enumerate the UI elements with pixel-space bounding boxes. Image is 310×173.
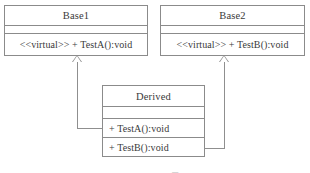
class-attributes-base2 — [161, 25, 304, 33]
class-attributes-base1 — [5, 25, 147, 33]
generalization-line-derived-base1-vertical — [77, 62, 78, 128]
uml-class-base1[interactable]: Base1 <<virtual>> + TestA():void — [4, 5, 148, 56]
class-name-derived: Derived — [103, 86, 204, 106]
uml-class-base2[interactable]: Base2 <<virtual>> + TestB():void — [160, 5, 305, 56]
class-name-base2: Base2 — [161, 6, 304, 25]
generalization-line-derived-base2-vertical — [224, 62, 225, 148]
diagram-caption: ― ―― ―▄ — [0, 166, 310, 173]
uml-class-derived[interactable]: Derived + TestA():void + TestB():void — [102, 85, 205, 157]
generalization-line-derived-base2-horizontal — [204, 148, 225, 149]
class-attributes-derived — [103, 106, 204, 118]
class-operation-base2-testb: <<virtual>> + TestB():void — [161, 33, 304, 55]
uml-class-diagram: Base1 <<virtual>> + TestA():void Base2 <… — [0, 0, 310, 173]
generalization-arrowhead-base1 — [72, 55, 82, 62]
class-operation-derived-testa: + TestA():void — [103, 118, 204, 137]
generalization-line-derived-base1-horizontal — [77, 128, 103, 129]
class-name-base1: Base1 — [5, 6, 147, 25]
triangle-fill-icon — [220, 56, 228, 62]
triangle-fill-icon — [73, 56, 81, 62]
class-operation-derived-testb: + TestB():void — [103, 137, 204, 156]
class-operation-base1-testa: <<virtual>> + TestA():void — [5, 33, 147, 55]
generalization-arrowhead-base2 — [219, 55, 229, 62]
